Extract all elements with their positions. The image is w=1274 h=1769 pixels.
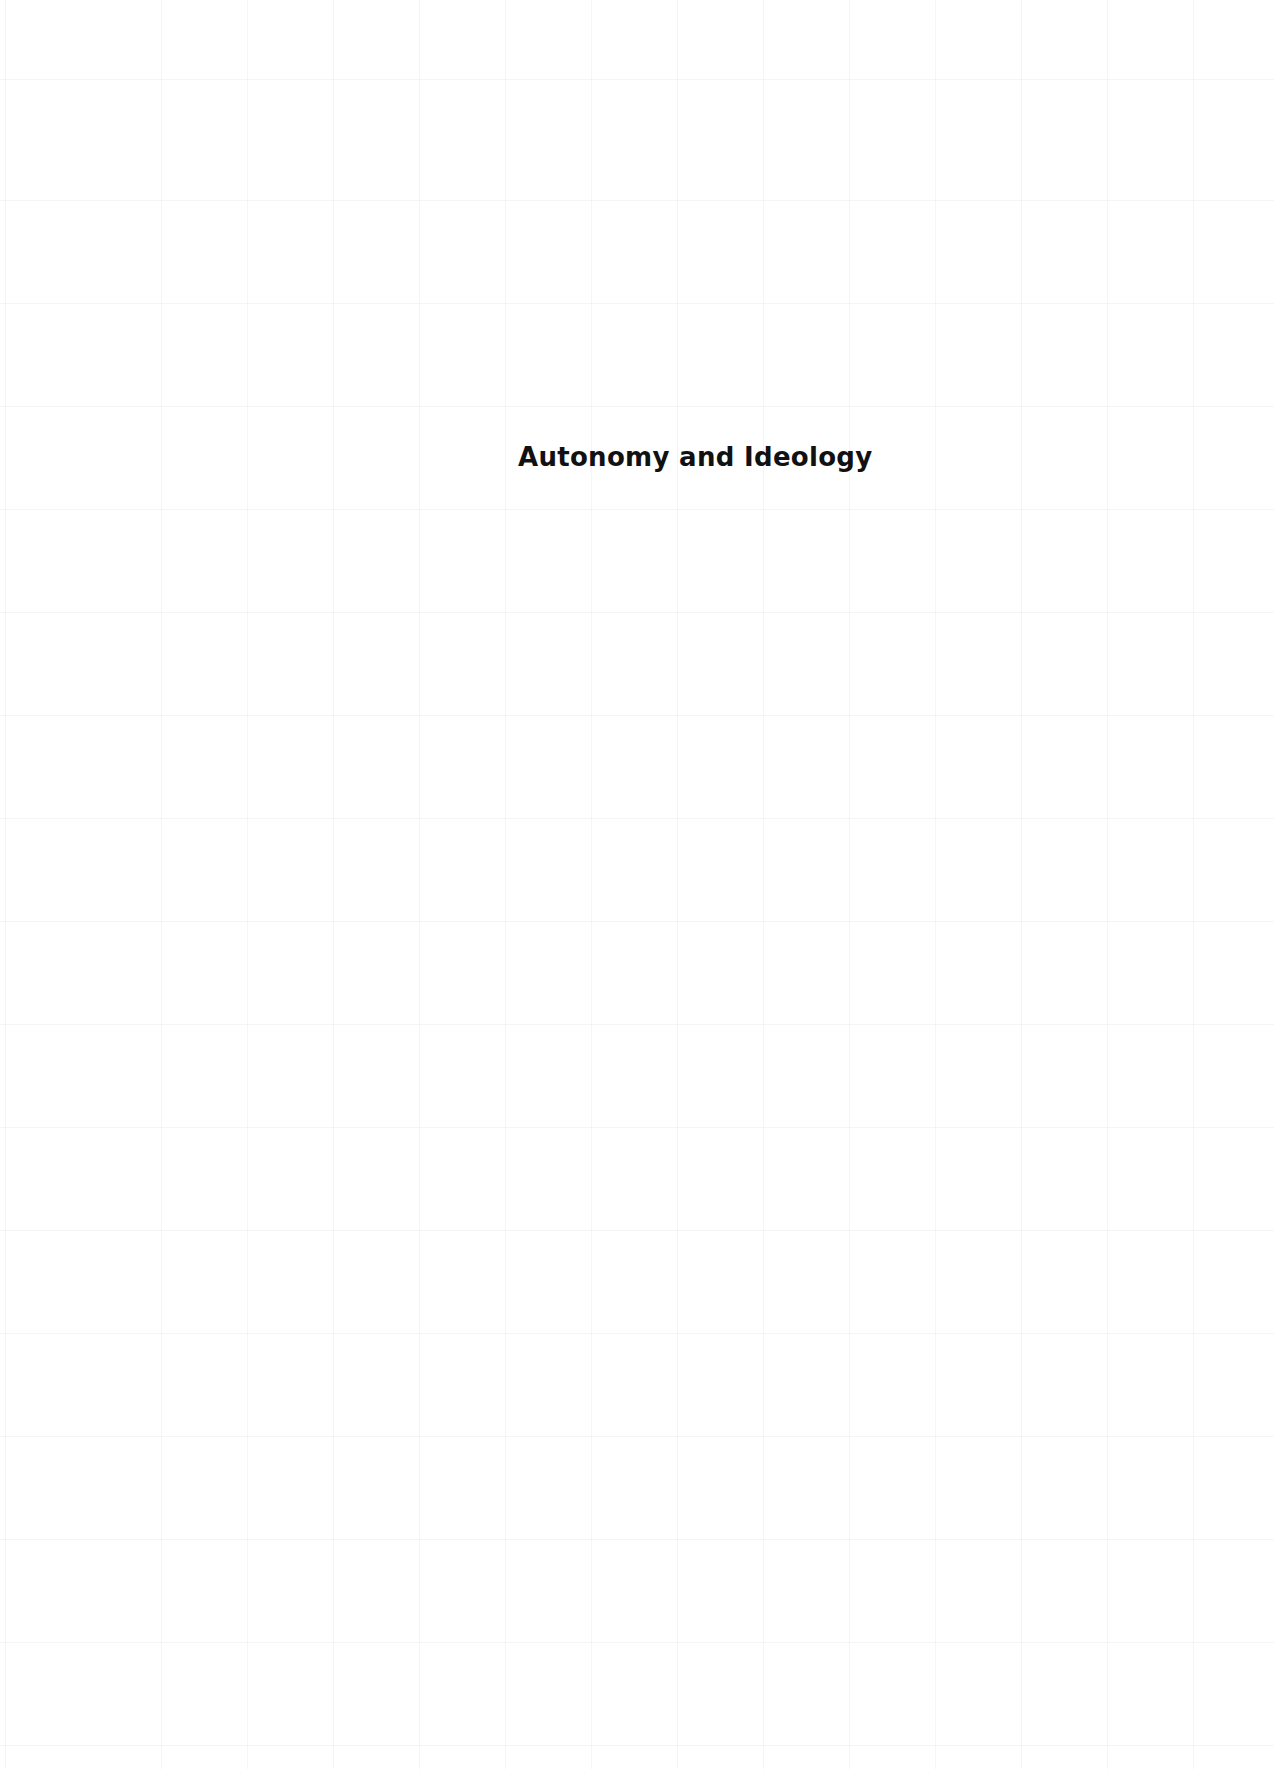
book-page: Autonomy and Ideology (0, 0, 1274, 1769)
half-title: Autonomy and Ideology (518, 440, 873, 474)
